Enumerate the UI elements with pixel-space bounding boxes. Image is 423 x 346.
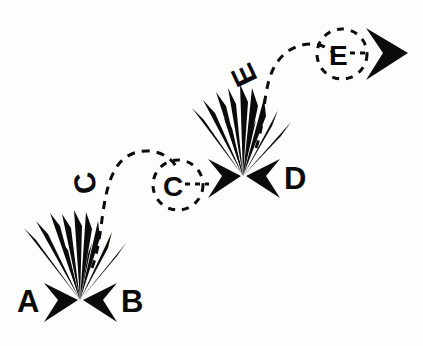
label-d: D bbox=[284, 161, 306, 196]
collision-cascade-diagram: A B C C bbox=[0, 0, 423, 346]
label-c-trajectory-group: C bbox=[67, 170, 103, 197]
arrowhead-left-b bbox=[83, 283, 117, 322]
label-b: B bbox=[121, 284, 143, 319]
label-e-trajectory: E bbox=[224, 58, 264, 92]
arrowhead-right-final bbox=[366, 28, 408, 80]
arrowhead-right-a bbox=[44, 283, 78, 322]
label-a: A bbox=[17, 284, 39, 319]
label-c-trajectory: C bbox=[67, 170, 103, 197]
label-c-circle: C bbox=[163, 171, 183, 202]
arrowhead-left-d bbox=[246, 159, 280, 198]
dashed-trajectory-e bbox=[256, 44, 338, 148]
label-e-circle: E bbox=[329, 40, 348, 71]
arrowhead-right-c bbox=[208, 159, 241, 198]
diagram-canvas: A B C C bbox=[0, 0, 423, 346]
label-e-trajectory-group: E bbox=[224, 58, 264, 92]
